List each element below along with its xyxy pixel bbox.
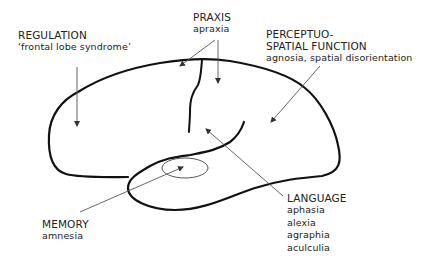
- language-item-aphasia: aphasia: [287, 204, 347, 217]
- perceptuo-spatial-subtitle: agnosia, spatial disorientation: [266, 52, 412, 64]
- regulation-label: REGULATION ‘frontal lobe syndrome’: [18, 29, 131, 53]
- praxis-arrow-left: [180, 40, 215, 66]
- central-sulcus: [189, 60, 202, 132]
- memory-title: MEMORY: [42, 218, 89, 230]
- praxis-title: PRAXIS: [193, 11, 231, 23]
- memory-arrow: [80, 167, 183, 212]
- regulation-title: REGULATION: [18, 29, 131, 41]
- language-label: LANGUAGE aphasia alexia agraphia aculcul…: [287, 192, 347, 254]
- memory-label: MEMORY amnesia: [42, 218, 89, 242]
- brain-outline: [49, 59, 340, 210]
- language-item-aculculia: aculculia: [287, 242, 347, 255]
- memory-region-ellipse: [162, 158, 208, 178]
- language-arrow: [206, 129, 283, 196]
- memory-subtitle: amnesia: [42, 230, 89, 242]
- perceptuo-spatial-title-line2: SPATIAL FUNCTION: [266, 40, 412, 52]
- language-title: LANGUAGE: [287, 192, 347, 204]
- language-item-alexia: alexia: [287, 217, 347, 230]
- perceptuo-spatial-label: PERCEPTUO- SPATIAL FUNCTION agnosia, spa…: [266, 28, 412, 64]
- language-item-agraphia: agraphia: [287, 229, 347, 242]
- brain-function-diagram: REGULATION ‘frontal lobe syndrome’ PRAXI…: [0, 0, 427, 267]
- perceptuo-spatial-title-line1: PERCEPTUO-: [266, 28, 412, 40]
- praxis-label: PRAXIS apraxia: [193, 11, 231, 35]
- regulation-subtitle: ‘frontal lobe syndrome’: [18, 41, 131, 53]
- praxis-subtitle: apraxia: [193, 23, 231, 35]
